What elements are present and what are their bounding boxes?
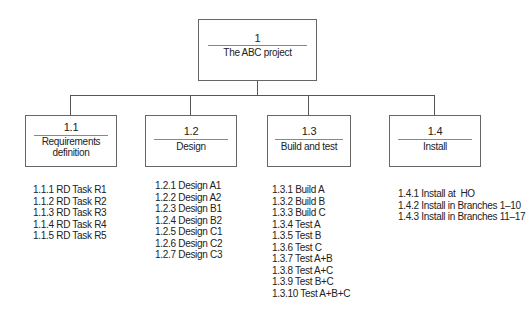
list-item: 1.3.1 Build A [272,184,350,196]
list-item: 1.1.2 RD Task R2 [33,196,106,208]
list-item: 1.4.1 Install at HO [398,188,525,200]
connector-1-4 [434,95,435,115]
root-number: 1 [199,32,316,44]
node-1-3: 1.3 Build and test [267,115,351,167]
list-item: 1.3.2 Build B [272,196,350,208]
list-item: 1.2.7 Design C3 [155,249,222,261]
list-item: 1.2.6 Design C2 [155,238,222,250]
root-node: 1 The ABC project [198,19,317,81]
list-item: 1.1.3 RD Task R3 [33,207,106,219]
node-number: 1.4 [390,125,480,137]
task-list-1-2: 1.2.1 Design A1 1.2.2 Design A2 1.2.3 De… [155,180,222,261]
node-divider [398,139,472,140]
node-label: Requirements definition [38,136,104,158]
list-item: 1.2.2 Design A2 [155,192,222,204]
list-item: 1.3.4 Test A [272,219,350,231]
list-item: 1.1.4 RD Task R4 [33,219,106,231]
node-label: Install [390,141,480,152]
list-item: 1.3.8 Test A+C [272,265,350,277]
connector-1-2 [190,95,191,115]
task-list-1-3: 1.3.1 Build A 1.3.2 Build B 1.3.3 Build … [272,184,350,299]
node-1-4: 1.4 Install [389,115,481,167]
list-item: 1.3.10 Test A+B+C [272,288,350,300]
horizontal-connector [70,95,435,96]
node-divider [154,139,228,140]
node-number: 1.3 [268,125,350,137]
list-item: 1.3.5 Test B [272,230,350,242]
list-item: 1.2.5 Design C1 [155,226,222,238]
node-label: Design [146,141,236,152]
root-stem-connector [257,80,258,95]
node-1-2: 1.2 Design [145,115,237,167]
list-item: 1.2.3 Design B1 [155,203,222,215]
connector-1-1 [70,95,71,115]
node-1-1: 1.1 Requirements definition [25,115,117,167]
list-item: 1.3.6 Test C [272,242,350,254]
task-list-1-4: 1.4.1 Install at HO 1.4.2 Install in Bra… [398,188,525,223]
list-item: 1.4.3 Install in Branches 11–17 [398,211,525,223]
connector-1-3 [308,95,309,115]
list-item: 1.3.9 Test B+C [272,276,350,288]
list-item: 1.3.7 Test A+B [272,253,350,265]
node-number: 1.2 [146,125,236,137]
node-divider [275,139,343,140]
list-item: 1.2.4 Design B2 [155,215,222,227]
list-item: 1.2.1 Design A1 [155,180,222,192]
task-list-1-1: 1.1.1 RD Task R1 1.1.2 RD Task R2 1.1.3 … [33,184,106,242]
list-item: 1.4.2 Install in Branches 1–10 [398,200,525,212]
node-label: Build and test [268,141,350,152]
list-item: 1.3.3 Build C [272,207,350,219]
list-item: 1.1.1 RD Task R1 [33,184,106,196]
root-divider [208,45,307,46]
list-item: 1.1.5 RD Task R5 [33,230,106,242]
root-label: The ABC project [199,47,316,58]
node-number: 1.1 [26,121,116,133]
